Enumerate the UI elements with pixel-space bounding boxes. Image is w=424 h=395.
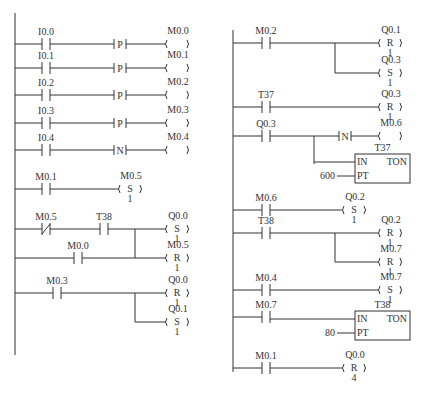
coil-count: 1 [175, 326, 180, 337]
rung: T37Q0.3R1 [233, 88, 402, 122]
coil-left-paren [119, 185, 121, 193]
negative-edge-symbol: N [341, 131, 348, 142]
coil-right-paren [140, 185, 142, 193]
coil-label: Q0.3 [381, 88, 401, 99]
coil-label: Q0.2 [381, 214, 401, 225]
no-contact-label: I0.2 [38, 77, 54, 88]
coil-left-paren [166, 146, 168, 154]
timer-name: T38 [374, 299, 390, 310]
coil-label: M0.7 [380, 243, 401, 254]
coil-right-paren [187, 289, 189, 297]
ladder-logic-canvas: I0.0PM0.0I0.1PM0.1I0.2PM0.2I0.3PM0.3I0.4… [0, 0, 424, 395]
coil-left-paren [379, 39, 381, 47]
no-contact-label: I0.1 [38, 50, 54, 61]
rung: T38Q0.2R1 [233, 214, 402, 248]
coil-left-paren [343, 206, 345, 214]
timer-name: T37 [374, 142, 390, 153]
coil-label: M0.5 [120, 170, 141, 181]
nc-contact-label: M0.5 [35, 211, 56, 222]
rung: M0.3Q0.0R1 [15, 274, 189, 308]
coil-label: M0.6 [380, 117, 401, 128]
coil-right-paren [400, 229, 402, 237]
rung: T37INTONPT600 [314, 136, 410, 183]
coil-label: M0.2 [167, 76, 188, 87]
no-contact-label: I0.0 [38, 26, 54, 37]
rung: I0.2PM0.2 [15, 76, 189, 101]
coil-left-paren [166, 40, 168, 48]
no-contact-label: Q0.3 [256, 118, 276, 129]
no-contact-label: T38 [258, 215, 274, 226]
coil-label: M0.5 [167, 239, 188, 250]
coil-right-paren [187, 225, 189, 233]
coil-right-paren [400, 258, 402, 266]
coil-right-paren [400, 39, 402, 47]
no-contact-label: T37 [258, 89, 274, 100]
no-contact-label: M0.7 [255, 299, 276, 310]
ladder-diagram: I0.0PM0.0I0.1PM0.1I0.2PM0.2I0.3PM0.3I0.4… [0, 0, 424, 395]
rung: M0.7T38INTONPT80 [233, 299, 410, 340]
no-contact-label: I0.4 [38, 132, 54, 143]
timer-pt-pin: PT [357, 327, 369, 338]
coil-label: Q0.0 [168, 210, 188, 221]
no-contact-label: M0.1 [35, 171, 56, 182]
coil-label: Q0.3 [381, 54, 401, 65]
coil-label: Q0.2 [345, 191, 365, 202]
rung: Q0.3NM0.6 [233, 117, 402, 142]
coil-left-paren [379, 258, 381, 266]
timer-pt-pin: PT [357, 170, 369, 181]
coil-right-paren [187, 146, 189, 154]
coil-left-paren [379, 103, 381, 111]
timer-in-pin: IN [357, 313, 368, 324]
left-network: I0.0PM0.0I0.1PM0.1I0.2PM0.2I0.3PM0.3I0.4… [15, 13, 189, 355]
coil-label: Q0.0 [168, 274, 188, 285]
rung: I0.4NM0.4 [15, 131, 189, 156]
coil-right-paren [400, 132, 402, 140]
rung: Q0.1S1 [135, 293, 189, 337]
coil-count: 1 [352, 214, 357, 225]
coil-label: M0.0 [167, 25, 188, 36]
coil-left-paren [379, 286, 381, 294]
coil-label: M0.1 [167, 49, 188, 60]
coil-left-paren [166, 254, 168, 262]
no-contact-label: M0.0 [67, 240, 88, 251]
rung: I0.3PM0.3 [15, 104, 189, 129]
rung: M0.5T38Q0.0S1 [15, 210, 189, 244]
coil-left-paren [166, 289, 168, 297]
rung: M0.1Q0.0R4 [233, 349, 366, 383]
coil-right-paren [400, 69, 402, 77]
positive-edge-symbol: P [117, 90, 123, 101]
coil-label: Q0.1 [168, 303, 188, 314]
rung: M0.1M0.5S1 [15, 170, 142, 204]
coil-right-paren [187, 91, 189, 99]
positive-edge-symbol: P [117, 39, 123, 50]
no-contact-label: M0.1 [255, 350, 276, 361]
rung: I0.1PM0.1 [15, 49, 189, 74]
no-contact-label: I0.3 [38, 105, 54, 116]
no-contact-label: T38 [96, 211, 112, 222]
coil-count: 1 [388, 77, 393, 88]
right-network: M0.2Q0.1R1Q0.3S1T37Q0.3R1Q0.3NM0.6T37INT… [233, 24, 410, 383]
coil-right-paren [187, 119, 189, 127]
coil-left-paren [379, 132, 381, 140]
coil-left-paren [166, 318, 168, 326]
negative-edge-symbol: N [116, 145, 123, 156]
no-contact-label: M0.6 [255, 192, 276, 203]
contact-slash [42, 224, 50, 234]
no-contact-label: M0.3 [46, 275, 67, 286]
coil-label: M0.7 [380, 271, 401, 282]
coil-label: Q0.1 [381, 24, 401, 35]
timer-block: T37INTONPT600 [314, 142, 410, 183]
coil-label: Q0.0 [345, 349, 365, 360]
rung: M0.2Q0.1R1 [233, 24, 402, 58]
rung: M0.0M0.5R1 [15, 229, 189, 273]
timer-block: T38INTONPT80 [270, 299, 410, 340]
coil-right-paren [187, 40, 189, 48]
coil-right-paren [187, 254, 189, 262]
coil-left-paren [379, 229, 381, 237]
coil-label: M0.3 [167, 104, 188, 115]
positive-edge-symbol: P [117, 63, 123, 74]
coil-count: 1 [128, 193, 133, 204]
coil-left-paren [166, 64, 168, 72]
coil-left-paren [166, 91, 168, 99]
coil-right-paren [364, 364, 366, 372]
